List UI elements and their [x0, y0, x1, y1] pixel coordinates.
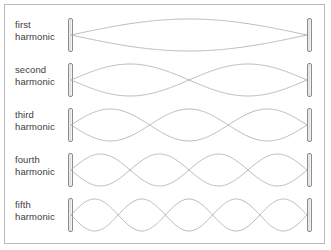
wave-envelope	[71, 109, 307, 141]
harmonics-figure: first harmonicsecond harmonicthird harmo…	[0, 0, 331, 250]
wave-envelope	[71, 19, 307, 35]
wave-envelope	[71, 109, 307, 141]
harmonic-row: fourth harmonic	[5, 147, 326, 192]
standing-wave-curve	[5, 192, 326, 237]
standing-wave-curve	[5, 102, 326, 147]
standing-wave-curve	[5, 12, 326, 57]
wave-envelope	[71, 35, 307, 51]
standing-wave-curve	[5, 57, 326, 102]
figure-frame: first harmonicsecond harmonicthird harmo…	[4, 4, 325, 244]
harmonic-row: fifth harmonic	[5, 192, 326, 237]
standing-wave-curve	[5, 147, 326, 192]
harmonic-row: third harmonic	[5, 102, 326, 147]
wave-envelope	[71, 154, 307, 186]
wave-envelope	[71, 64, 307, 96]
harmonic-row: second harmonic	[5, 57, 326, 102]
harmonic-row: first harmonic	[5, 12, 326, 57]
